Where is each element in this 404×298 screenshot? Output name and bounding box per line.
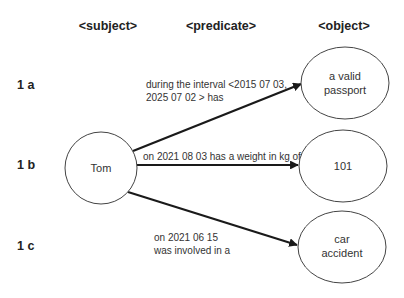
object-node-weight-label: 101	[334, 160, 352, 172]
object-node-accident-line2: accident	[322, 247, 363, 259]
header-subject: <subject>	[79, 19, 137, 33]
edge-1a-label-line1: during the interval <2015 07 03,	[146, 79, 287, 90]
row-label-1b: 1 b	[17, 158, 35, 172]
edge-1b-label: on 2021 08 03 has a weight in kg of	[143, 151, 301, 162]
header-predicate: <predicate>	[186, 19, 256, 33]
subject-node-label: Tom	[91, 162, 112, 174]
header-object: <object>	[318, 19, 369, 33]
object-node-passport-line2: passport	[324, 84, 366, 96]
edge-1a-label-line2: 2025 07 02 > has	[146, 92, 224, 103]
row-label-1a: 1 a	[17, 78, 35, 92]
object-node-passport	[301, 47, 389, 119]
edge-1c-label-line2: was involved in a	[153, 245, 231, 256]
edge-1c-label-line1: on 2021 06 15	[154, 232, 218, 243]
object-node-passport-line1: a valid	[329, 70, 361, 82]
object-node-accident-line1: car	[334, 233, 350, 245]
triple-diagram: <subject> <predicate> <object> 1 a 1 b 1…	[0, 0, 404, 298]
row-label-1c: 1 c	[17, 239, 34, 253]
